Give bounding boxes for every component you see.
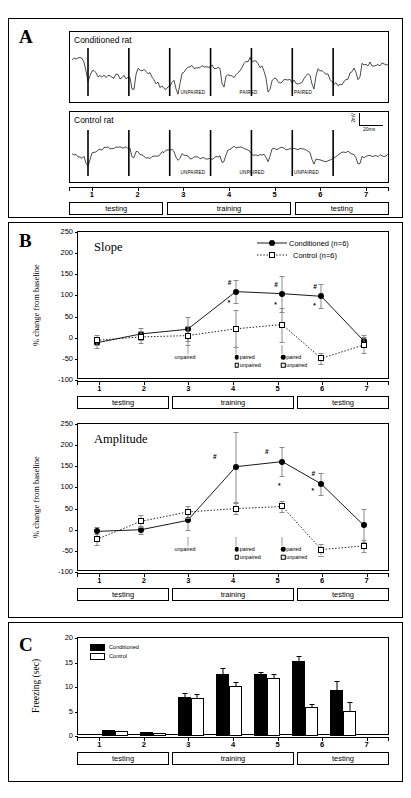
error-bar-cap xyxy=(185,518,190,519)
x-tick-label: 5 xyxy=(275,576,279,585)
error-bar-cap xyxy=(319,473,324,474)
data-point-conditioned xyxy=(279,459,285,465)
y-tick-label: 50 xyxy=(45,311,73,320)
significance-marker: # xyxy=(313,283,317,290)
data-point-conditioned xyxy=(318,293,324,299)
legend-marker-conditioned xyxy=(269,240,275,246)
error-bar-cap xyxy=(362,335,367,336)
series-line-1 xyxy=(97,507,364,550)
bar-conditioned xyxy=(292,661,305,736)
error-bar-cap xyxy=(233,280,238,281)
plot-area-amplitude: Amplitude###**unpairedpairedunpairedpair… xyxy=(77,423,389,571)
x-tick-label: 2 xyxy=(135,190,139,199)
y-tick xyxy=(75,687,78,688)
x-tick-label: 2 xyxy=(142,576,146,585)
x-tick-label: 1 xyxy=(97,384,101,393)
bar-conditioned xyxy=(254,674,267,736)
error-bar-cap xyxy=(182,693,187,694)
error-bar-cap xyxy=(280,512,285,513)
legend-marker-lines xyxy=(257,239,293,265)
plot-area-freezing: ConditionedControl xyxy=(77,637,389,735)
x-tick-label: 5 xyxy=(273,190,277,199)
annotation-marker-control xyxy=(235,363,240,368)
x-tick xyxy=(77,737,78,741)
series-line-1 xyxy=(97,325,364,359)
y-tick xyxy=(75,638,78,639)
error-bar-cap xyxy=(280,308,285,309)
panel-c: CConditionedControl20151050Freezing (sec… xyxy=(8,622,403,782)
bar-control xyxy=(191,698,204,736)
series-lines xyxy=(78,232,388,378)
x-tick-label: 4 xyxy=(231,576,235,585)
series-lines xyxy=(78,424,388,570)
error-bar-cap xyxy=(185,326,190,327)
scale-bar-horizontal-label: 20ms xyxy=(363,126,375,132)
legend-label-control: Control (n=6) xyxy=(293,251,337,260)
error-bar-cap xyxy=(185,506,190,507)
annotation-pointer xyxy=(235,537,236,546)
y-axis-label: Freezing (sec) xyxy=(31,641,41,731)
trace-box-conditioned: Conditioned ratUNPAIREDPAIREDPAIRED xyxy=(69,31,389,103)
trace-event-label: UNPAIRED xyxy=(180,90,205,95)
data-point-conditioned xyxy=(361,522,367,528)
legend-swatch-control xyxy=(90,653,105,660)
data-point-control xyxy=(279,503,285,509)
y-axis-label: % change from baseline xyxy=(31,241,41,369)
annotation-pointer xyxy=(282,345,283,354)
y-tick-label: 0 xyxy=(45,332,73,341)
annotation-marker-conditioned xyxy=(235,355,240,360)
annotation-label: unpaired xyxy=(175,354,196,360)
data-point-control xyxy=(233,506,239,512)
legend-label-conditioned: Conditioned xyxy=(109,644,139,650)
error-bar-cap xyxy=(319,556,324,557)
significance-marker: # xyxy=(228,279,232,286)
x-tick-label: 7 xyxy=(365,740,369,749)
bar-control xyxy=(305,707,318,736)
bar-control xyxy=(115,731,128,736)
error-bar-cap xyxy=(280,501,285,502)
error-bar-cap xyxy=(347,702,352,703)
annotation-label: paired xyxy=(286,354,301,360)
y-tick-label: 50 xyxy=(45,503,73,512)
significance-marker: * xyxy=(278,482,281,489)
bar-conditioned xyxy=(102,730,115,736)
data-point-control xyxy=(318,547,324,553)
figure-root: AConditioned ratUNPAIREDPAIREDPAIREDCont… xyxy=(0,0,411,798)
phase-bar: training xyxy=(172,396,294,409)
error-bar-cap xyxy=(319,353,324,354)
x-tick-label: 5 xyxy=(275,384,279,393)
phase-bar: training xyxy=(172,752,294,765)
x-tick-label: 3 xyxy=(186,740,190,749)
error-bar-cap xyxy=(220,668,225,669)
trace-event-label: PAIRED xyxy=(240,90,258,95)
annotation-label: unpaired xyxy=(286,554,307,560)
error-bar-cap xyxy=(185,317,190,318)
trace-box-control: Control ratUNPAIREDUNPAIREDUNPAIRED xyxy=(69,111,389,183)
error-bar-cap xyxy=(319,284,324,285)
error-bar-cap xyxy=(139,343,144,344)
y-tick-label: 200 xyxy=(45,440,73,449)
error-bar-cap xyxy=(185,530,190,531)
phase-bar: testing xyxy=(69,202,163,215)
x-tick-label: 5 xyxy=(275,740,279,749)
data-point-conditioned xyxy=(233,289,239,295)
error-bar-cap xyxy=(195,694,200,695)
x-tick xyxy=(388,381,389,385)
significance-marker: # xyxy=(311,470,315,477)
x-tick-label: 3 xyxy=(186,384,190,393)
trace-event-label: PAIRED xyxy=(294,90,312,95)
annotation-label: paired xyxy=(240,546,255,552)
y-tick-label: 150 xyxy=(45,461,73,470)
error-bar-cap xyxy=(233,303,238,304)
error-bar-cap xyxy=(362,337,367,338)
annotation-label: paired xyxy=(286,546,301,552)
x-tick-label: 6 xyxy=(318,190,322,199)
scale-bar-vertical-label: 2mV xyxy=(351,113,356,122)
error-bar-cap xyxy=(139,527,144,528)
eeg-trace xyxy=(70,112,388,182)
series-line-0 xyxy=(97,462,364,532)
annotation-marker-control xyxy=(235,555,240,560)
error-bar-cap xyxy=(233,514,238,515)
phase-bar: testing xyxy=(77,752,169,765)
x-tick xyxy=(388,737,389,741)
